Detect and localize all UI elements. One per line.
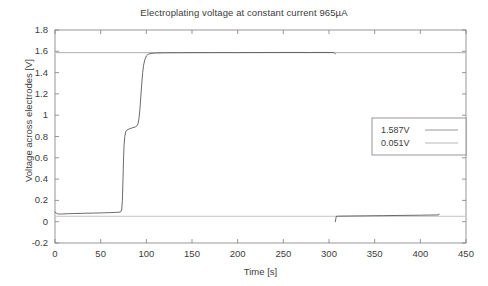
- y-tick-label: 0.4: [4, 173, 48, 184]
- plot-area: [0, 0, 488, 286]
- x-tick-label: 450: [446, 248, 486, 259]
- y-tick-label: 0: [4, 216, 48, 227]
- x-tick-label: 100: [126, 248, 166, 259]
- x-tick-label: 0: [35, 248, 75, 259]
- y-tick-label: 0.8: [4, 131, 48, 142]
- y-tick-label: 1.6: [4, 45, 48, 56]
- x-tick-label: 150: [172, 248, 212, 259]
- x-tick-label: 300: [309, 248, 349, 259]
- legend-label-1: 0.051V: [381, 138, 410, 148]
- legend-frame: [372, 118, 466, 155]
- y-tick-label: 1.2: [4, 88, 48, 99]
- x-tick-label: 400: [400, 248, 440, 259]
- y-tick-label: -0.2: [4, 237, 48, 248]
- x-tick-label: 350: [355, 248, 395, 259]
- x-tick-label: 50: [81, 248, 121, 259]
- legend-label-0: 1.587V: [381, 125, 410, 135]
- y-tick-label: 0.2: [4, 194, 48, 205]
- y-tick-label: 0.6: [4, 152, 48, 163]
- y-tick-label: 1.4: [4, 67, 48, 78]
- chart-figure: Electroplating voltage at constant curre…: [0, 0, 488, 286]
- x-tick-label: 200: [218, 248, 258, 259]
- x-tick-label: 250: [263, 248, 303, 259]
- legend-box: [372, 118, 466, 155]
- y-tick-label: 1.8: [4, 24, 48, 35]
- y-tick-label: 1: [4, 109, 48, 120]
